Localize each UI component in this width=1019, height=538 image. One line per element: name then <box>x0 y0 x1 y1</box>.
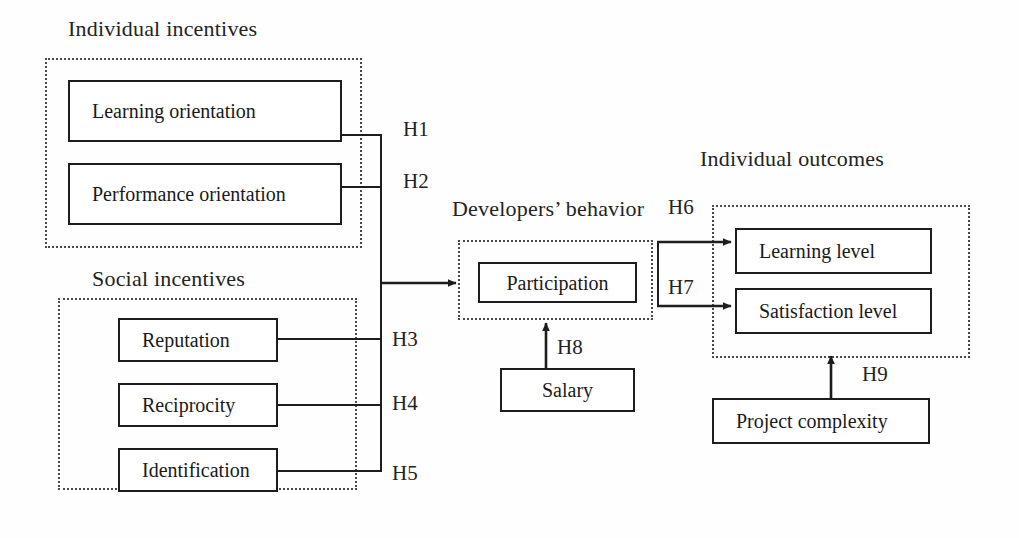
hypothesis-label-h7: H7 <box>668 276 694 299</box>
connector-h3 <box>278 338 382 340</box>
group-title-developers-behavior: Developers’ behavior <box>452 196 644 222</box>
connector-h4 <box>278 404 382 406</box>
box-project-complexity[interactable]: Project complexity <box>712 398 930 444</box>
box-learning-orientation-label: Learning orientation <box>92 100 256 122</box>
box-reciprocity-label: Reciprocity <box>142 394 235 416</box>
box-reputation[interactable]: Reputation <box>118 318 278 362</box>
hypothesis-label-h5: H5 <box>392 462 418 485</box>
hypothesis-label-h4: H4 <box>392 392 418 415</box>
research-model-diagram: Individual incentives Social incentives … <box>0 0 1019 538</box>
box-project-complexity-label: Project complexity <box>736 410 888 432</box>
box-learning-level[interactable]: Learning level <box>735 228 932 274</box>
connector-spine-outcomes <box>657 241 659 307</box>
box-participation-label: Participation <box>506 272 608 294</box>
group-title-social-incentives: Social incentives <box>92 266 245 292</box>
group-title-individual-outcomes: Individual outcomes <box>700 146 884 172</box>
box-identification[interactable]: Identification <box>118 448 278 492</box>
hypothesis-label-h1: H1 <box>403 118 429 141</box>
connector-spine-incentives <box>380 134 382 470</box>
group-title-individual-incentives: Individual incentives <box>68 16 257 42</box>
box-salary[interactable]: Salary <box>500 368 635 412</box>
box-salary-label: Salary <box>542 379 593 401</box>
box-learning-orientation[interactable]: Learning orientation <box>68 80 342 142</box>
box-satisfaction-level[interactable]: Satisfaction level <box>735 288 932 334</box>
connector-h2 <box>342 186 382 188</box>
hypothesis-label-h9: H9 <box>862 363 888 386</box>
connector-h1 <box>342 134 382 136</box>
box-reciprocity[interactable]: Reciprocity <box>118 383 278 427</box>
box-learning-level-label: Learning level <box>759 240 875 262</box>
hypothesis-label-h3: H3 <box>392 328 418 351</box>
box-reputation-label: Reputation <box>142 329 230 351</box>
hypothesis-label-h6: H6 <box>668 196 694 219</box>
connector-h5 <box>278 470 382 472</box>
box-participation[interactable]: Participation <box>478 262 637 303</box>
box-performance-orientation-label: Performance orientation <box>92 183 286 205</box>
box-performance-orientation[interactable]: Performance orientation <box>68 163 342 225</box>
box-satisfaction-level-label: Satisfaction level <box>759 300 897 322</box>
hypothesis-label-h8: H8 <box>557 336 583 359</box>
box-identification-label: Identification <box>142 459 250 481</box>
hypothesis-label-h2: H2 <box>403 170 429 193</box>
